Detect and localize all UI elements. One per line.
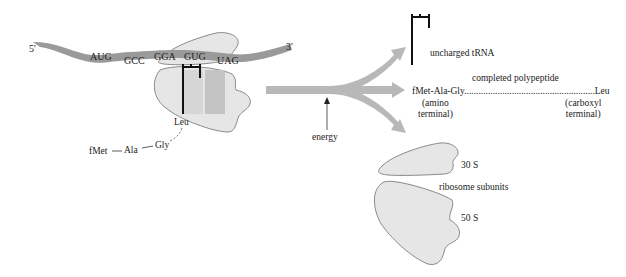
three-prime-label: 3' [286,41,293,52]
five-prime-label: 5' [29,43,36,54]
leu-label: Leu [174,117,189,128]
ala-label: Ala [124,145,138,156]
codon-5: UAG [217,55,239,66]
codon-2: GCC [124,55,145,66]
polypeptide-dots: ........................................… [464,86,595,96]
polypeptide-line: fMet-Ala-Gly............................… [412,86,610,97]
carboxyl-terminal-label: (carboxyl terminal) [565,98,601,120]
uncharged-trna-glyph [412,14,429,65]
fmet-label: fMet [89,146,107,157]
amino-terminal-label: (amino terminal) [418,98,453,120]
30s-label: 30 S [461,160,478,171]
free-30s-subunit [379,143,458,176]
energy-arrow-head [324,97,330,104]
codon-1: AUG [90,51,112,62]
free-50s-subunit [374,181,459,264]
50s-label: 50 S [461,213,478,224]
energy-label: energy [312,132,338,143]
codon-3: GGA [154,51,176,62]
uncharged-trna-label: uncharged tRNA [430,48,494,59]
codon-4: GUG [184,51,206,62]
polypeptide-start: fMet-Ala-Gly [412,86,464,96]
ribosome-subunits-label: ribosome subunits [439,182,508,193]
gly-label: Gly [155,140,169,151]
completed-polypeptide-title: completed polypeptide [472,73,559,84]
a-site-shade [205,70,225,114]
bond-ala-gly [142,146,153,148]
polypeptide-end: Leu [595,86,610,96]
branch-arrows [266,47,406,133]
peptide-link [170,128,182,141]
